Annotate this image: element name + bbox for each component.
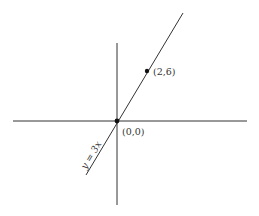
point-2-6 [145,69,149,73]
origin-point [115,119,120,124]
origin-label: (0,0) [122,126,145,137]
point-2-6-label: (2,6) [153,66,176,77]
graph-canvas: (0,0) (2,6) y = 3x [0,0,259,216]
line-y-equals-3x [86,13,183,175]
